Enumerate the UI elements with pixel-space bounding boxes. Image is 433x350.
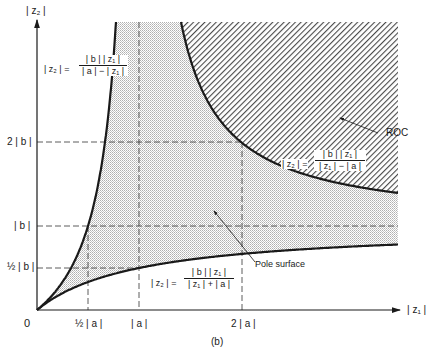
y-tick-b: | b | bbox=[14, 221, 30, 231]
left-curve-eq-num: | b | | z₁ | bbox=[79, 55, 127, 66]
x-tick-2a: 2 | a | bbox=[231, 319, 256, 329]
bottom-curve-eq-lhs: | z₂ | = bbox=[150, 278, 177, 288]
y-axis-label: | z₂ | bbox=[26, 6, 46, 16]
bottom-curve-eq-fraction: | b | | z₁ | | z₁ | + | a | bbox=[183, 268, 235, 289]
right-curve-eq-fraction: | b | | z₁ | | z₁ | − | a | bbox=[314, 150, 366, 171]
left-curve-eq-lhs: | z₂ | = bbox=[43, 64, 70, 74]
left-curve-eq-fraction: | b | | z₁ | | a | − | z₁ | bbox=[78, 55, 128, 76]
pole-surface-label: Pole surface bbox=[255, 260, 305, 269]
figure-caption: (b) bbox=[211, 337, 223, 347]
bottom-curve-eq-num: | b | | z₁ | bbox=[184, 268, 234, 279]
x-tick-half-a: ½ | a | bbox=[75, 319, 102, 329]
roc-label: ROC bbox=[386, 128, 408, 138]
y-tick-half-b: ½ | b | bbox=[7, 262, 34, 272]
left-curve-eq-den: | a | − | z₁ | bbox=[79, 66, 127, 76]
y-tick-2b: 2 | b | bbox=[7, 137, 32, 147]
right-curve-eq-lhs: | z₂ | = bbox=[281, 159, 308, 169]
x-tick-a: | a | bbox=[131, 319, 147, 329]
origin-label: 0 bbox=[24, 318, 30, 329]
right-curve-eq-num: | b | | z₁ | bbox=[315, 150, 365, 161]
bottom-curve-eq-den: | z₁ | + | a | bbox=[184, 279, 234, 289]
x-axis-label: | z₁ | bbox=[407, 305, 426, 315]
roc-diagram bbox=[0, 0, 433, 350]
right-curve-eq-den: | z₁ | − | a | bbox=[315, 161, 365, 171]
